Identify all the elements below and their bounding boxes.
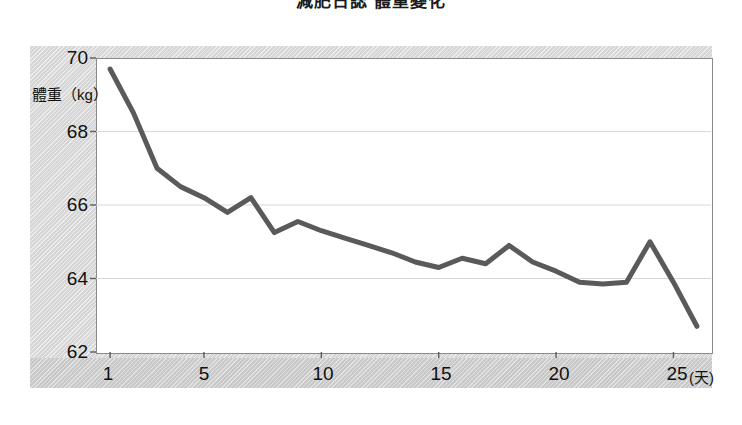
x-tick-label: 25 [666, 363, 687, 385]
y-tick-label: 66 [67, 194, 88, 216]
y-tick-label: 64 [67, 268, 88, 290]
x-tick-label: 20 [548, 363, 569, 385]
y-tick-label: 62 [67, 341, 88, 363]
x-tick-label: 1 [103, 363, 114, 385]
x-tick-label: 15 [430, 363, 451, 385]
x-axis-unit-label: (天) [689, 366, 714, 387]
plot-area [96, 58, 713, 354]
x-tick-label: 10 [312, 363, 333, 385]
y-axis-tick-labels: 70 68 66 64 62 [36, 0, 88, 425]
x-tick-label: 5 [199, 363, 210, 385]
y-tick-label: 68 [67, 121, 88, 143]
chart-title: 減肥日誌 體重變化 [0, 0, 742, 12]
y-tick-label: 70 [67, 47, 88, 69]
x-axis-label-strip [30, 358, 712, 388]
